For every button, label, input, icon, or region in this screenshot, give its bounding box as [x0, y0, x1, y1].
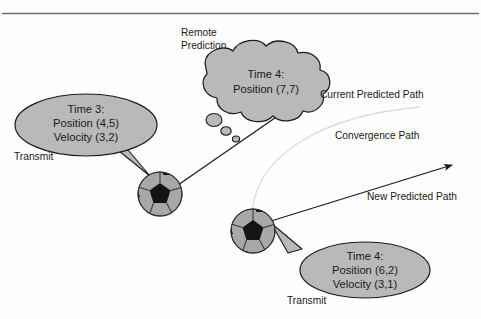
cloud-tail-bubble-large [206, 114, 222, 127]
right-bubble-line1: Time 4: [347, 250, 384, 262]
right-bubble-tail [271, 223, 302, 253]
soccer-ball-time-3 [125, 159, 196, 230]
remote-prediction-label-line2: Prediction [181, 40, 226, 51]
left-bubble-line1: Time 3: [68, 103, 105, 115]
right-bubble-line2: Position (6,2) [332, 264, 398, 276]
convergence-path-label: Convergence Path [335, 130, 419, 141]
cloud-shape [203, 40, 330, 121]
left-state-bubble: Time 3: Position (4,5) Velocity (3,2) [15, 94, 157, 176]
remote-prediction-label-line1: Remote [181, 27, 217, 38]
ball1-patches [125, 159, 196, 230]
right-bubble-line3: Velocity (3,1) [333, 278, 398, 290]
dead-reckoning-diagram: Time 3: Position (4,5) Velocity (3,2) Ti… [0, 0, 481, 319]
left-bubble-line3: Velocity (3,2) [54, 131, 119, 143]
new-predicted-path-label: New Predicted Path [367, 191, 457, 202]
cloud-tail-bubble-small [232, 136, 239, 142]
left-bubble-line2: Position (4,5) [53, 117, 119, 129]
right-state-bubble: Time 4: Position (6,2) Velocity (3,1) [271, 223, 430, 298]
remote-prediction-cloud: Time 4: Position (7,7) [203, 40, 330, 142]
cloud-bubble-line2: Position (7,7) [233, 83, 299, 95]
current-predicted-path-label: Current Predicted Path [320, 89, 424, 100]
transmit-label-right: Transmit [287, 295, 326, 306]
transmit-label-left: Transmit [14, 151, 53, 162]
cloud-tail-bubble-medium [221, 127, 231, 136]
cloud-bubble-line1: Time 4: [248, 68, 285, 80]
diagram-canvas: Time 3: Position (4,5) Velocity (3,2) Ti… [0, 0, 481, 319]
